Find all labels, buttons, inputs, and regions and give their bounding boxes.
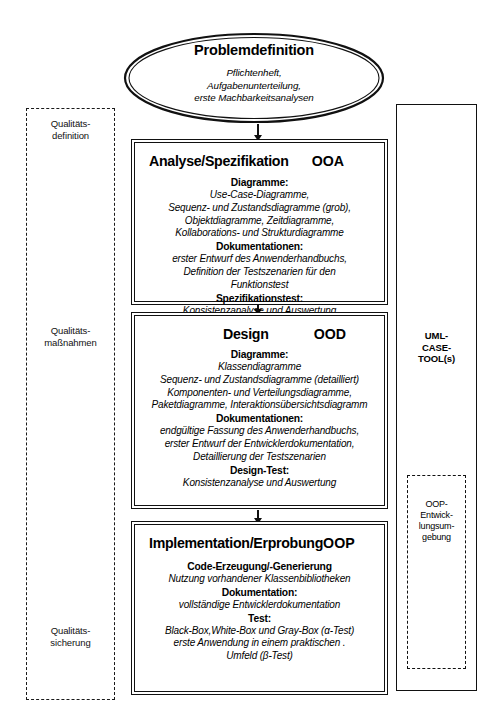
phase-box-implementation-inner: Implementation/Erprobung OOP Code-Erzeug… <box>134 524 385 692</box>
quality-label-definition: Qualitäts- definition <box>26 118 115 141</box>
quality-column-dashed-container <box>26 108 115 700</box>
uml-case-tool-label-line1: UML- <box>396 330 477 342</box>
oop-env-line1: OOP- <box>407 499 466 510</box>
phase-analyse-code: OOA <box>312 153 344 169</box>
phase-analyse-title: Analyse/Spezifikation <box>149 153 289 169</box>
phase-design-section-0-line-1: Sequenz- und Zustandsdiagramme (detailli… <box>139 374 380 387</box>
phase-implementation-section-2-line-1: erste Anwendung in einem praktischen . <box>139 637 380 650</box>
phase-design-section-2-head: Design-Test: <box>139 464 380 477</box>
oop-env-line3: lungsum- <box>407 521 466 532</box>
problem-definition-title: Problemdefinition <box>122 42 386 58</box>
arrow-problem-to-analyse <box>257 124 259 136</box>
phase-design-section-0-line-2: Komponenten- und Verteilungsdiagramme, <box>139 387 380 400</box>
quality-label-definition-line1: Qualitäts- <box>26 118 115 130</box>
phase-analyse-section-0-line-3: Kollaborations- und Strukturdiagramme <box>139 227 380 240</box>
phase-implementation-section-2-line-2: Umfeld (β-Test) <box>139 650 380 663</box>
phase-design-section-0-line-0: Klassendiagramme <box>139 361 380 374</box>
phase-implementation-section-0-line-0: Nutzung vorhandener Klassenbibliotheken <box>139 573 380 586</box>
phase-box-design: Design OOD Diagramme: Klassendiagramme S… <box>131 312 388 509</box>
quality-label-massnahmen: Qualitäts- maßnahmen <box>26 325 115 348</box>
quality-label-massnahmen-line2: maßnahmen <box>26 337 115 349</box>
oop-development-environment-label: OOP- Entwick- lungsum- gebung <box>407 499 466 543</box>
phase-implementation-section-0-head: Code-Erzeugung/-Generierung <box>139 560 380 573</box>
phase-design-section-1-line-0: endgültige Fassung des Anwenderhandbuchs… <box>139 425 380 438</box>
phase-implementation-code: OOP <box>323 535 355 551</box>
phase-analyse-section-0-line-0: Use-Case-Diagramme, <box>139 189 380 202</box>
quality-label-massnahmen-line1: Qualitäts- <box>26 325 115 337</box>
phase-design-section-0-head: Diagramme: <box>139 348 380 361</box>
phase-design-section-1-line-1: erster Entwurf der Entwicklerdokumentati… <box>139 438 380 451</box>
phase-design-section-1-line-2: Detaillierung der Testszenarien <box>139 451 380 464</box>
phase-design-body: Diagramme: Klassendiagramme Sequenz- und… <box>135 342 384 489</box>
arrow-design-to-implementation <box>257 510 259 519</box>
phase-analyse-section-0-head: Diagramme: <box>139 176 380 189</box>
quality-label-sicherung-line1: Qualitäts- <box>26 625 115 637</box>
phase-analyse-section-1-line-1: Definition der Testszenarien für den <box>139 266 380 279</box>
problem-definition-line-2: Aufgabenunterteilung, <box>122 80 386 93</box>
quality-label-sicherung-line2: sicherung <box>26 637 115 649</box>
phase-implementation-title: Implementation/Erprobung <box>149 535 323 551</box>
quality-label-definition-line2: definition <box>26 130 115 142</box>
phase-implementation-section-1-line-0: vollständige Entwicklerdokumentation <box>139 599 380 612</box>
phase-analyse-header: Analyse/Spezifikation OOA <box>135 143 384 169</box>
phase-box-analyse: Analyse/Spezifikation OOA Diagramme: Use… <box>131 139 388 305</box>
phase-box-analyse-inner: Analyse/Spezifikation OOA Diagramme: Use… <box>134 142 385 302</box>
phase-box-implementation: Implementation/Erprobung OOP Code-Erzeug… <box>131 521 388 695</box>
phase-implementation-header: Implementation/Erprobung OOP <box>135 525 384 551</box>
phase-analyse-section-0-line-2: Objektdiagramme, Zeitdiagramme, <box>139 215 380 228</box>
uml-case-tool-label-line2: CASE- <box>396 342 477 354</box>
quality-label-sicherung: Qualitäts- sicherung <box>26 625 115 648</box>
phase-analyse-section-1-head: Dokumentationen: <box>139 240 380 253</box>
phase-design-title: Design <box>223 326 269 342</box>
phase-design-section-2-line-0: Konsistenzanalyse und Auswertung <box>139 477 380 490</box>
problem-definition-lines: Pflichtenheft, Aufgabenunterteilung, ers… <box>122 67 386 105</box>
phase-design-code: OOD <box>314 326 346 342</box>
uml-case-tool-label-line3: TOOL(s) <box>396 353 477 365</box>
oop-env-line4: gebung <box>407 532 466 543</box>
phase-implementation-body: Code-Erzeugung/-Generierung Nutzung vorh… <box>135 551 384 663</box>
phase-analyse-section-1-line-0: erster Entwurf des Anwenderhandbuchs, <box>139 253 380 266</box>
phase-box-design-inner: Design OOD Diagramme: Klassendiagramme S… <box>134 315 385 506</box>
phase-implementation-section-1-head: Dokumentation: <box>139 586 380 599</box>
phase-analyse-section-2-head: Spezifikationstest: <box>139 292 380 305</box>
problem-definition-line-3: erste Machbarkeitsanalysen <box>122 92 386 105</box>
problem-definition-line-1: Pflichtenheft, <box>122 67 386 80</box>
uml-case-tool-label: UML- CASE- TOOL(s) <box>396 330 477 365</box>
phase-design-section-1-head: Dokumentationen: <box>139 412 380 425</box>
problem-definition-text: Problemdefinition Pflichtenheft, Aufgabe… <box>122 42 386 105</box>
phase-design-section-0-line-3: Paketdiagramme, Interaktionsübersichtsdi… <box>139 399 380 412</box>
phase-design-header: Design OOD <box>135 316 384 342</box>
oop-env-line2: Entwick- <box>407 510 466 521</box>
phase-analyse-body: Diagramme: Use-Case-Diagramme, Sequenz- … <box>135 169 384 317</box>
phase-implementation-section-2-head: Test: <box>139 612 380 625</box>
phase-implementation-section-2-line-0: Black-Box,White-Box und Gray-Box (α-Test… <box>139 625 380 638</box>
phase-analyse-section-0-line-1: Sequenz- und Zustandsdiagramme (grob), <box>139 202 380 215</box>
phase-analyse-section-1-line-2: Funktionstest <box>139 279 380 292</box>
